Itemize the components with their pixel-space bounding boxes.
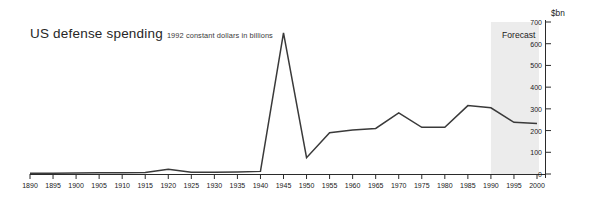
x-tick-label: 1920 <box>160 182 176 189</box>
x-tick-label: 1935 <box>230 182 246 189</box>
x-tick-label: 1975 <box>414 182 430 189</box>
x-tick-label: 1925 <box>184 182 200 189</box>
forecast-label: Forecast <box>502 30 535 40</box>
x-tick-label: 1940 <box>253 182 269 189</box>
y-tick-label: 200 <box>524 127 542 134</box>
x-tick-label: 1985 <box>460 182 476 189</box>
x-tick-label: 1900 <box>68 182 84 189</box>
defense-spending-chart: US defense spending1992 constant dollars… <box>0 0 594 204</box>
y-tick-label: 400 <box>524 84 542 91</box>
y-tick-label: 100 <box>524 149 542 156</box>
x-tick-label: 1960 <box>345 182 361 189</box>
chart-subtitle: 1992 constant dollars in billions <box>167 31 273 40</box>
x-tick-label: 1995 <box>506 182 522 189</box>
x-tick-label: 1965 <box>368 182 384 189</box>
spending-line-series <box>30 33 537 173</box>
x-tick-label: 1980 <box>437 182 453 189</box>
page-title: US defense spending <box>30 26 163 41</box>
x-tick-label: 2000 <box>529 182 545 189</box>
chart-title-block: US defense spending1992 constant dollars… <box>30 24 273 42</box>
x-tick-label: 1950 <box>299 182 315 189</box>
x-tick-label: 1945 <box>276 182 292 189</box>
y-tick-label: 700 <box>524 19 542 26</box>
x-tick-label: 1990 <box>483 182 499 189</box>
x-tick-label: 1890 <box>22 182 38 189</box>
x-tick-label: 1930 <box>207 182 223 189</box>
y-axis-unit-label: $bn <box>551 8 565 18</box>
y-tick-label: 0 <box>524 171 542 178</box>
x-tick-label: 1955 <box>322 182 338 189</box>
y-tick-label: 500 <box>524 62 542 69</box>
x-tick-label: 1915 <box>137 182 153 189</box>
x-tick-label: 1910 <box>114 182 130 189</box>
y-tick-label: 300 <box>524 105 542 112</box>
x-tick-label: 1905 <box>91 182 107 189</box>
x-tick-label: 1970 <box>391 182 407 189</box>
y-tick-label: 600 <box>524 40 542 47</box>
x-tick-label: 1895 <box>45 182 61 189</box>
